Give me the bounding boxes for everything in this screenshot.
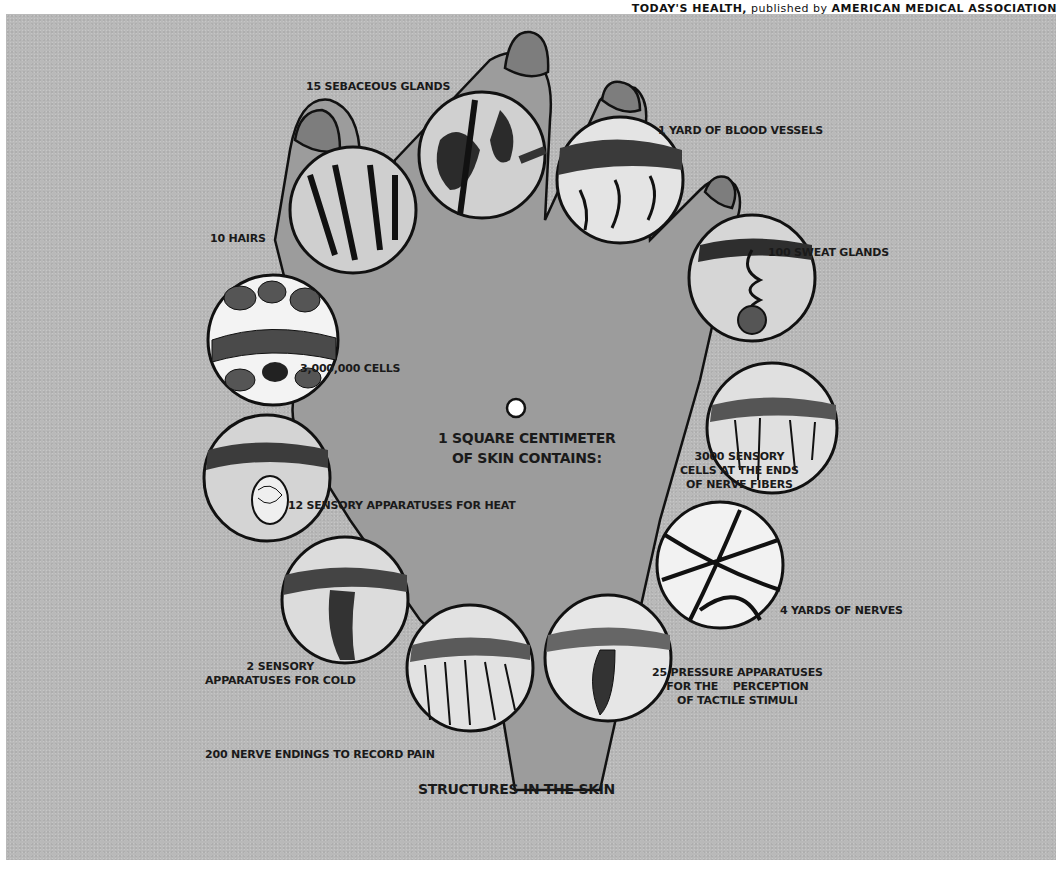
label-sensory-cells-line-2: CELLS AT THE ENDS <box>680 464 799 478</box>
hairs-circle-icon <box>290 147 416 273</box>
label-pressure-line-2: FOR THE PERCEPTION <box>652 680 823 694</box>
pain-nerve-endings-circle-icon <box>407 605 533 731</box>
label-nerves: 4 YARDS OF NERVES <box>780 604 903 618</box>
label-blood-vessels: 1 YARD OF BLOOD VESSELS <box>658 124 823 138</box>
label-heat-apparatus: 12 SENSORY APPARATUSES FOR HEAT <box>288 499 515 513</box>
nerves-circle-icon <box>657 502 783 628</box>
label-cold-apparatus: 2 SENSORY APPARATUSES FOR COLD <box>205 660 356 688</box>
label-cold-line-2: APPARATUSES FOR COLD <box>205 674 356 688</box>
cells-circle-icon <box>208 275 338 405</box>
label-pressure-line-1: 25 PRESSURE APPARATUSES <box>652 666 823 680</box>
label-sensory-cells-line-1: 3000 SENSORY <box>680 450 799 464</box>
figure-caption: STRUCTURES IN THE SKIN <box>418 781 615 797</box>
sebaceous-gland-circle-icon <box>419 92 545 218</box>
label-sensory-cells: 3000 SENSORY CELLS AT THE ENDS OF NERVE … <box>680 450 799 492</box>
label-pain-nerve-endings: 200 NERVE ENDINGS TO RECORD PAIN <box>205 748 435 762</box>
label-hairs: 10 HAIRS <box>210 232 266 246</box>
center-title-line-1: 1 SQUARE CENTIMETER <box>438 428 616 448</box>
label-sweat-glands: 100 SWEAT GLANDS <box>768 246 889 260</box>
label-cold-line-1: 2 SENSORY <box>205 660 356 674</box>
label-sensory-cells-line-3: OF NERVE FIBERS <box>680 478 799 492</box>
label-cells: 3,000,000 CELLS <box>300 362 400 376</box>
sweat-glands-circle-icon <box>689 215 815 341</box>
label-pressure-line-3: OF TACTILE STIMULI <box>652 694 823 708</box>
label-sebaceous-glands: 15 SEBACEOUS GLANDS <box>306 80 450 94</box>
skin-sample-dot-icon <box>507 399 525 417</box>
heat-apparatus-circle-icon <box>204 415 330 541</box>
cold-apparatus-circle-icon <box>282 537 408 663</box>
label-pressure-apparatus: 25 PRESSURE APPARATUSES FOR THE PERCEPTI… <box>652 666 823 708</box>
center-title: 1 SQUARE CENTIMETER OF SKIN CONTAINS: <box>438 428 616 468</box>
center-title-line-2: OF SKIN CONTAINS: <box>438 448 616 468</box>
